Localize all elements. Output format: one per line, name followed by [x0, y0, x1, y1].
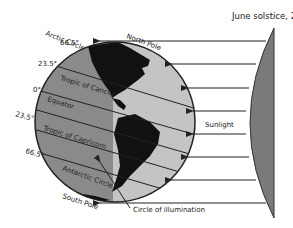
equator-deg-label: 0°: [33, 86, 41, 94]
diagram-title: June solstice, 21 June: [231, 11, 293, 21]
circle-of-illumination-label: Circle of illumination: [133, 206, 205, 214]
tropic-capricorn-deg-label: 23.5°: [14, 110, 35, 123]
arctic-deg-label: 66.5°: [60, 39, 79, 47]
sun-shape: [250, 28, 274, 218]
solstice-diagram: June solstice, 21 June: [0, 0, 293, 228]
sunlight-label: Sunlight: [205, 121, 234, 129]
tropic-cancer-deg-label: 23.5°: [38, 60, 57, 68]
